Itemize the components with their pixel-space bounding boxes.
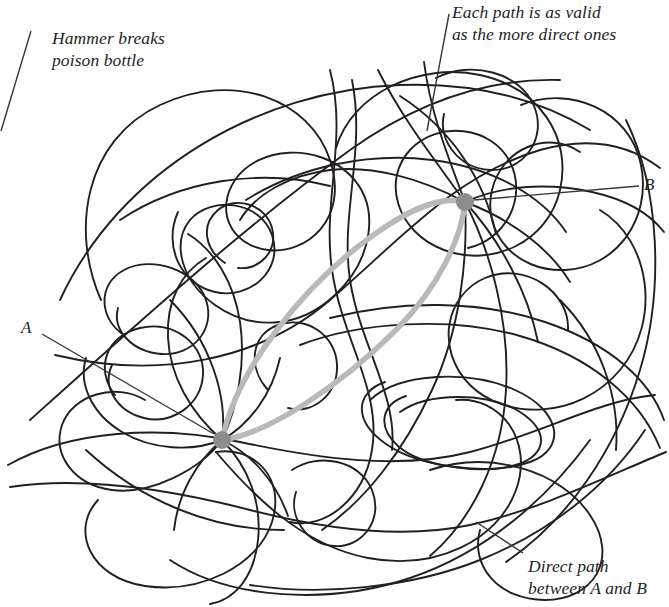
annotation-direct-path-line2: between A and B — [528, 578, 647, 598]
annotation-each-path: Each path is as validas the more direct … — [452, 2, 616, 46]
leader-line-hammer — [1, 31, 31, 131]
leader-line-direct-path — [476, 522, 523, 553]
annotation-direct-path-line1: Direct path — [528, 556, 609, 576]
node-label-a: A — [21, 318, 31, 338]
maze-canvas — [0, 0, 669, 607]
node-a-dot[interactable] — [213, 431, 231, 449]
annotation-hammer-line1: Hammer breaks — [52, 28, 165, 48]
annotation-direct-path: Direct pathbetween A and B — [528, 556, 647, 600]
tangle-lines — [8, 62, 666, 604]
annotation-hammer-breaks: Hammer breakspoison bottle — [52, 28, 165, 72]
maze-figure: Hammer breakspoison bottle Each path is … — [0, 0, 669, 607]
annotation-each-path-line2: as the more direct ones — [452, 24, 616, 44]
annotation-hammer-line2: poison bottle — [52, 50, 144, 70]
annotation-each-path-line1: Each path is as valid — [452, 2, 601, 22]
node-b-dot[interactable] — [456, 193, 474, 211]
node-label-b: B — [644, 175, 654, 195]
